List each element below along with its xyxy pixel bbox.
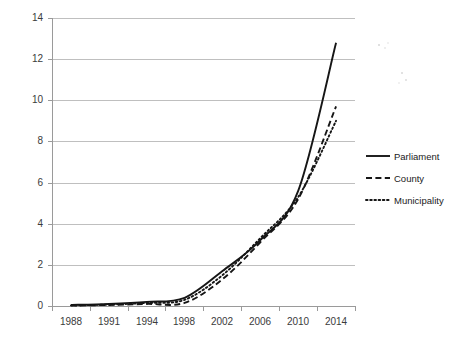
legend-label-municipality: Municipality	[394, 195, 444, 206]
x-tick-label-2002: 2002	[211, 316, 234, 327]
line-chart: 14 12 10 8 6 4 2 0 1988 1991 1994 1998	[0, 0, 467, 347]
y-tick-label-8: 8	[37, 135, 43, 146]
scan-speck	[401, 72, 403, 74]
x-tick-label-1994: 1994	[136, 316, 159, 327]
x-tick-label-1998: 1998	[173, 316, 196, 327]
x-tick-label-2006: 2006	[249, 316, 272, 327]
y-tick-label-12: 12	[32, 53, 44, 64]
y-tick-label-10: 10	[32, 94, 44, 105]
scan-speck	[384, 47, 386, 49]
legend-label-parliament: Parliament	[394, 151, 440, 162]
y-tick-label-2: 2	[37, 259, 43, 270]
y-tick-label-0: 0	[37, 300, 43, 311]
x-tick-label-2010: 2010	[287, 316, 310, 327]
y-tick-label-6: 6	[37, 177, 43, 188]
scan-speck	[405, 79, 407, 81]
x-tick-label-1988: 1988	[60, 316, 83, 327]
y-tick-label-4: 4	[37, 218, 43, 229]
y-tick-label-14: 14	[32, 12, 44, 23]
scan-speck	[398, 82, 399, 83]
scan-speck	[387, 42, 388, 43]
legend-label-county: County	[394, 173, 424, 184]
scan-speck	[378, 44, 380, 46]
chart-container: 14 12 10 8 6 4 2 0 1988 1991 1994 1998	[0, 0, 467, 347]
x-tick-label-1991: 1991	[98, 316, 121, 327]
x-tick-label-2014: 2014	[325, 316, 348, 327]
